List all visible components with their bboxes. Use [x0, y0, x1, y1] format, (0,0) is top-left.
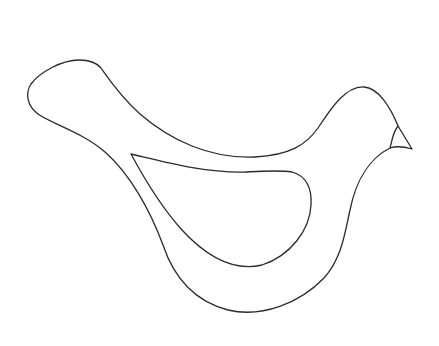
body-outline [28, 60, 412, 312]
bird-drawing [0, 0, 439, 346]
beak-outline [390, 126, 398, 148]
wing-outline [131, 154, 311, 267]
